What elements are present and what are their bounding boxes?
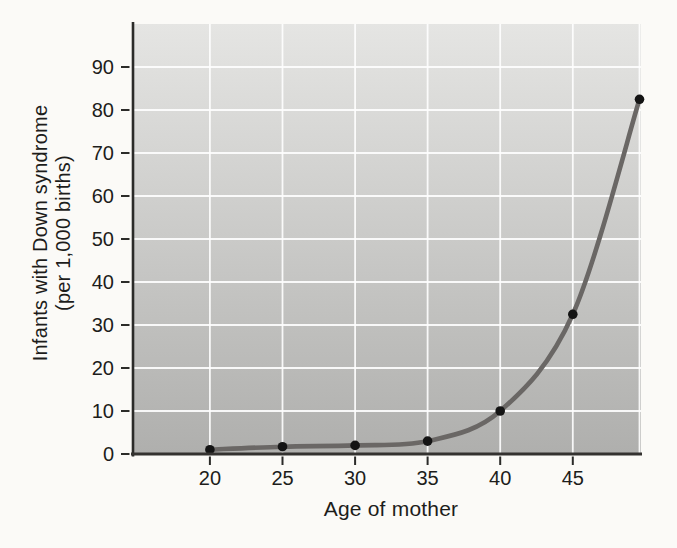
y-axis-title-line1: Infants with Down syndrome (29, 105, 52, 361)
y-tick-label: 60 (92, 185, 114, 207)
x-tick-label: 30 (344, 467, 366, 489)
data-point (350, 441, 360, 451)
y-tick-label: 70 (92, 142, 114, 164)
down-syndrome-age-chart: 0102030405060708090202530354045 Age of m… (0, 0, 677, 548)
chart-canvas: 0102030405060708090202530354045 (0, 0, 677, 548)
y-axis-title-line2: (per 1,000 births) (52, 105, 75, 361)
x-tick-label: 45 (562, 467, 584, 489)
x-axis-title: Age of mother (133, 497, 649, 521)
y-tick-label: 90 (92, 56, 114, 78)
y-tick-label: 10 (92, 400, 114, 422)
y-tick-label: 40 (92, 271, 114, 293)
x-tick-label: 40 (489, 467, 511, 489)
y-tick-label: 0 (103, 443, 114, 465)
data-point (423, 436, 433, 446)
data-point (568, 310, 578, 320)
y-tick-label: 50 (92, 228, 114, 250)
y-tick-label: 80 (92, 99, 114, 121)
x-tick-label: 35 (416, 467, 438, 489)
data-point (495, 406, 505, 416)
y-tick-label: 20 (92, 357, 114, 379)
y-tick-label: 30 (92, 314, 114, 336)
x-tick-label: 25 (271, 467, 293, 489)
data-point (278, 442, 288, 452)
y-axis-title: Infants with Down syndrome (per 1,000 bi… (29, 105, 75, 361)
data-point (635, 95, 645, 105)
x-tick-label: 20 (199, 467, 221, 489)
